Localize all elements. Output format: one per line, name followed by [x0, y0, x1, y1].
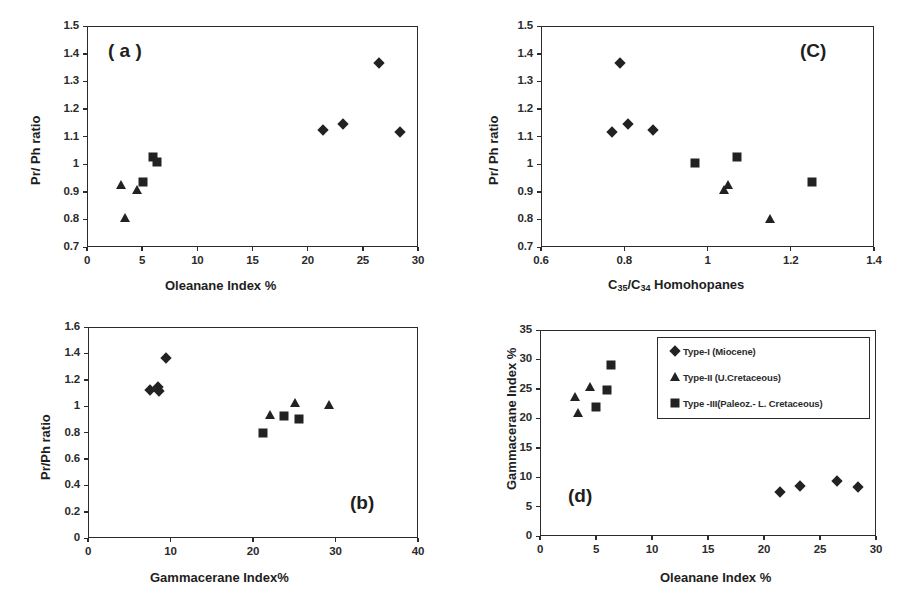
panel-c-tag: (C) [800, 40, 826, 62]
panel-a-ytick [83, 164, 87, 165]
panel-c-xtick [790, 247, 791, 251]
panel-d-point-square [592, 403, 601, 412]
panel-d-xtick-label: 30 [856, 543, 896, 555]
panel-c-ytick-label: 0.9 [499, 185, 533, 197]
legend-marker-diamond-icon [669, 345, 681, 357]
panel-c-xtick-label: 0.8 [604, 254, 644, 266]
panel-d-point-triangle [570, 392, 580, 401]
panel-a-ytick [83, 26, 87, 27]
panel-d-point-square [603, 386, 612, 395]
panel-a-point-diamond [395, 127, 406, 138]
legend-triangle-icon [670, 372, 680, 381]
panel-a-xtick [417, 247, 418, 251]
panel-d-tag: (d) [568, 485, 592, 507]
panel-d-ytick [536, 447, 540, 448]
panel-b-ytick-label: 1.6 [46, 320, 80, 332]
panel-c-point-triangle [719, 185, 729, 194]
panel-c-ytick-label: 1 [499, 157, 533, 169]
panel-a-y-axis-title: Pr/ Ph ratio [28, 116, 43, 185]
panel-c-ytick-label: 0.7 [499, 240, 533, 252]
panel-a-ytick-label: 0.9 [45, 185, 79, 197]
panel-b-ytick-label: 0.4 [46, 478, 80, 490]
panel-b-ytick-label: 1 [46, 399, 80, 411]
panel-a-xtick [307, 247, 308, 251]
panel-b-xtick [335, 538, 336, 542]
panel-a-point-diamond [374, 58, 385, 69]
panel-d-xtick [539, 536, 540, 540]
panel-d-xtick-label: 15 [688, 543, 728, 555]
panel-c-point-square [732, 153, 741, 162]
panel-a-ytick-label: 1.4 [45, 47, 79, 59]
panel-b-xtick-label: 10 [151, 545, 191, 557]
panel-b-xtick-label: 0 [68, 545, 108, 557]
panel-a-plot-area [87, 26, 418, 247]
panel-c-plot-area [541, 26, 874, 247]
panel-b-point-diamond [152, 381, 163, 392]
panel-d-ytick-label: 0 [498, 529, 532, 541]
panel-d-xtick-label: 5 [576, 543, 616, 555]
panel-c-point-diamond [648, 124, 659, 135]
panel-c-point-diamond [614, 58, 625, 69]
panel-c-ytick [537, 53, 541, 54]
panel-a-tag: ( a ) [108, 40, 142, 62]
panel-c-point-square [807, 178, 816, 187]
panel-d-ytick-label: 10 [498, 470, 532, 482]
panel-c-ytick [537, 81, 541, 82]
panel-b-xtick [417, 538, 418, 542]
panel-d-ytick [536, 388, 540, 389]
panel-a-xtick-label: 25 [343, 254, 383, 266]
panel-c-ytick-label: 1.1 [499, 130, 533, 142]
panel-a-xtick [86, 247, 87, 251]
panel-a-xtick [197, 247, 198, 251]
panel-b-ytick [84, 538, 88, 539]
panel-a-point-triangle [132, 185, 142, 194]
panel-c: 0.70.80.911.11.21.31.41.50.60.811.21.4Pr… [0, 0, 908, 609]
panel-d-point-diamond [774, 486, 785, 497]
panel-d-y-axis-title: Gammacerane Index % [504, 348, 519, 490]
panel-d-xtick-label: 0 [520, 543, 560, 555]
panel-b-ytick-label: 0.6 [46, 452, 80, 464]
panel-d-ytick [536, 359, 540, 360]
panel-c-xtick-label: 1 [688, 254, 728, 266]
panel-c-ytick [537, 26, 541, 27]
panel-d-xtick [595, 536, 596, 540]
panel-c-ytick-label: 0.8 [499, 212, 533, 224]
panel-a-ytick [83, 247, 87, 248]
panel-c-xtick-label: 1.2 [771, 254, 811, 266]
panel-d-ytick [536, 330, 540, 331]
panel-c-xtick [873, 247, 874, 251]
panel-d-xtick-label: 20 [744, 543, 784, 555]
panel-b-tag: (b) [350, 492, 374, 514]
panel-d-point-diamond [852, 481, 863, 492]
panel-b-point-triangle [265, 410, 275, 419]
panel-d-xtick [763, 536, 764, 540]
panel-b-ytick [84, 485, 88, 486]
panel-b-xtick-label: 40 [398, 545, 438, 557]
panel-c-xtick-label: 0.6 [521, 254, 561, 266]
panel-a-xtick [252, 247, 253, 251]
panel-a-point-triangle [116, 180, 126, 189]
legend-label: Type -III(Paleoz.- L. Cretaceous) [683, 398, 823, 409]
panel-a-ytick [83, 219, 87, 220]
panel-c-xtick [540, 247, 541, 251]
panel-b-ytick-label: 1.2 [46, 373, 80, 385]
legend-item-3: Type -III(Paleoz.- L. Cretaceous) [669, 397, 823, 409]
panel-b-ytick-label: 0.2 [46, 505, 80, 517]
panel-b-ytick [84, 379, 88, 380]
panel-c-ytick-label: 1.3 [499, 74, 533, 86]
panel-b-ytick [84, 327, 88, 328]
panel-a-xtick-label: 30 [398, 254, 438, 266]
panel-c-xtick [707, 247, 708, 251]
panel-d-xtick [875, 536, 876, 540]
panel-a-ytick [83, 191, 87, 192]
panel-b-xtick-label: 30 [316, 545, 356, 557]
panel-b-ytick-label: 0.8 [46, 426, 80, 438]
panel-d-xtick-label: 10 [632, 543, 672, 555]
panel-b-point-square [280, 412, 289, 421]
panel-b-ytick [84, 458, 88, 459]
panel-a-point-square [152, 157, 161, 166]
panel-c-point-diamond [606, 126, 617, 137]
panel-c-ytick-label: 1.4 [499, 47, 533, 59]
panel-a-point-diamond [317, 124, 328, 135]
panel-d-xtick [707, 536, 708, 540]
